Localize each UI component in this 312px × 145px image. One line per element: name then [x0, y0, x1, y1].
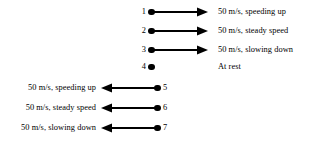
diagram-row: 50 m/s, slowing down 7 [0, 118, 312, 138]
velocity-arrow-right-icon [150, 21, 210, 41]
velocity-arrow-right-icon [150, 2, 210, 22]
velocity-arrow-left-icon [100, 98, 158, 118]
particle-dot [148, 64, 155, 71]
row-index-label: 6 [163, 98, 176, 118]
particle-dot [154, 105, 161, 112]
particle-dot [154, 85, 161, 92]
row-index-label: 4 [133, 57, 146, 77]
row-description-label: 50 m/s, slowing down [21, 118, 96, 138]
velocity-vector-diagram: 1 50 m/s, speeding up 2 50 m/s, steady s… [0, 0, 312, 145]
row-description-label: 50 m/s, steady speed [218, 21, 288, 41]
row-description-label: 50 m/s, speeding up [28, 78, 96, 98]
diagram-row: 1 50 m/s, speeding up [0, 2, 312, 22]
diagram-row: 4 At rest [0, 57, 312, 77]
row-description-label: 50 m/s, steady speed [26, 98, 96, 118]
row-index-label: 7 [163, 118, 176, 138]
row-index-label: 2 [133, 21, 146, 41]
row-description-label: 50 m/s, speeding up [218, 2, 286, 22]
diagram-row: 50 m/s, steady speed 6 [0, 98, 312, 118]
diagram-row: 50 m/s, speeding up 5 [0, 78, 312, 98]
velocity-arrow-left-icon [100, 118, 158, 138]
particle-dot [154, 125, 161, 132]
row-index-label: 1 [133, 2, 146, 22]
row-index-label: 5 [163, 78, 176, 98]
velocity-arrow-left-icon [100, 78, 158, 98]
row-description-label: At rest [218, 57, 241, 77]
diagram-row: 2 50 m/s, steady speed [0, 21, 312, 41]
